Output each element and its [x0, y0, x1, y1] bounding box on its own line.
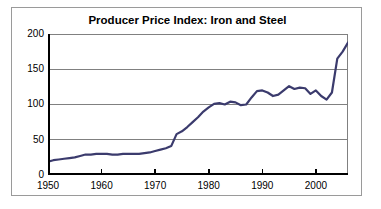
y-axis-labels: 200 150 100 50 0 — [12, 34, 44, 175]
x-tick-label-2000: 2000 — [305, 180, 327, 192]
plot-area — [48, 34, 348, 175]
chart-frame: Producer Price Index: Iron and Steel 200… — [11, 7, 362, 196]
y-tick-150: 150 — [14, 64, 44, 74]
plot-svg — [48, 34, 348, 175]
x-tick-label-1970: 1970 — [144, 180, 166, 192]
data-series-line — [48, 42, 348, 161]
y-tick-200: 200 — [14, 29, 44, 39]
x-tick-label-1950: 1950 — [37, 180, 59, 192]
x-tick-label-1990: 1990 — [251, 180, 273, 192]
y-tick-0: 0 — [14, 170, 44, 180]
x-tick-label-1980: 1980 — [198, 180, 220, 192]
x-axis-labels: 195019601970198019902000 — [48, 180, 348, 196]
chart-title: Producer Price Index: Iron and Steel — [12, 14, 363, 26]
y-tick-100: 100 — [14, 99, 44, 109]
y-tick-50: 50 — [14, 135, 44, 145]
x-tick-label-1960: 1960 — [90, 180, 112, 192]
chart-figure: Producer Price Index: Iron and Steel 200… — [0, 0, 381, 209]
